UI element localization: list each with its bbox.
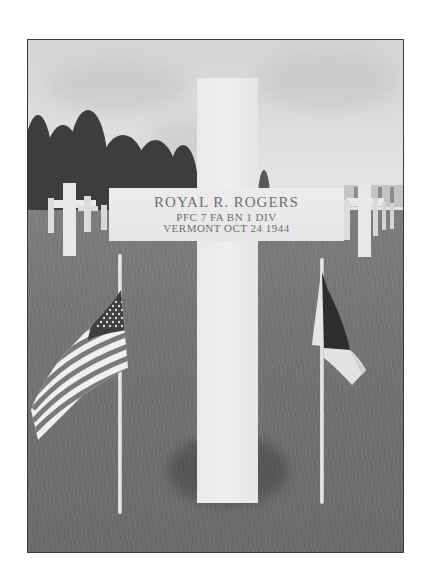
photograph: ROYAL R. ROGERS PFC 7 FA BN 1 DIV VERMON… bbox=[27, 39, 404, 553]
french-flag-icon bbox=[28, 40, 403, 552]
